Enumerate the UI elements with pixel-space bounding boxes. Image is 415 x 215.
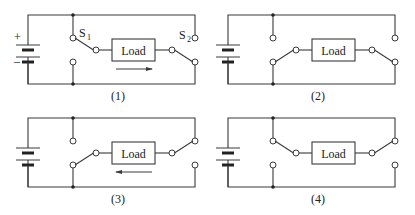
right-switch-bottom-terminal: [192, 162, 198, 168]
left-switch-blade: [275, 50, 294, 62]
current-arrow-left-icon: [115, 170, 122, 174]
left-switch-bottom-terminal: [270, 162, 276, 168]
right-switch-blade: [175, 50, 194, 62]
right-switch-top-terminal: [392, 35, 398, 41]
left-switch-top-terminal: [270, 35, 276, 41]
junction-dot: [71, 185, 75, 189]
circuit-diagram-canvas: +–LoadS1S2(1)Load(2)Load(3)Load(4): [0, 0, 415, 215]
junction-dot: [71, 13, 75, 17]
left-switch-pivot: [293, 150, 299, 156]
panel-2: Load(2): [216, 13, 398, 103]
panel-1: +–LoadS1S2(1): [13, 13, 198, 103]
current-arrow-right-icon: [146, 67, 153, 71]
panel-4: Load(4): [216, 116, 398, 206]
load-label: Load: [121, 44, 146, 58]
left-switch-blade: [275, 141, 294, 153]
load-label: Load: [321, 147, 346, 161]
right-switch-blade: [375, 141, 394, 153]
left-switch-top-terminal: [70, 138, 76, 144]
left-switch-pivot: [293, 47, 299, 53]
junction-dot: [271, 116, 275, 120]
left-switch-bottom-terminal: [70, 59, 76, 65]
left-switch-blade: [75, 153, 94, 165]
junction-dot: [271, 185, 275, 189]
right-switch-pivot: [369, 150, 375, 156]
right-switch-pivot: [169, 150, 175, 156]
right-switch-pivot: [369, 47, 375, 53]
switch-s2-label: S: [179, 28, 186, 42]
load-label: Load: [321, 44, 346, 58]
battery-plus-sign: +: [14, 30, 21, 44]
left-switch-pivot: [93, 150, 99, 156]
switch-circuit-figure: +–LoadS1S2(1)Load(2)Load(3)Load(4): [0, 0, 415, 215]
junction-dot: [271, 82, 275, 86]
right-switch-pivot: [169, 47, 175, 53]
panel-caption: (2): [311, 89, 325, 103]
battery-minus-sign: –: [13, 54, 21, 68]
panel-caption: (4): [311, 192, 325, 206]
right-switch-blade: [175, 141, 194, 153]
junction-dot: [271, 13, 275, 17]
right-switch-bottom-terminal: [392, 162, 398, 168]
right-switch-top-terminal: [192, 35, 198, 41]
panel-caption: (1): [111, 89, 125, 103]
junction-dot: [71, 82, 75, 86]
load-label: Load: [121, 147, 146, 161]
switch-s2-subscript: 2: [187, 35, 191, 44]
switch-s1-subscript: 1: [87, 33, 91, 42]
junction-dot: [71, 116, 75, 120]
switch-s1-label: S: [79, 26, 86, 40]
panel-caption: (3): [111, 192, 125, 206]
panel-3: Load(3): [16, 116, 198, 206]
right-switch-blade: [375, 50, 394, 62]
left-switch-pivot: [93, 47, 99, 53]
